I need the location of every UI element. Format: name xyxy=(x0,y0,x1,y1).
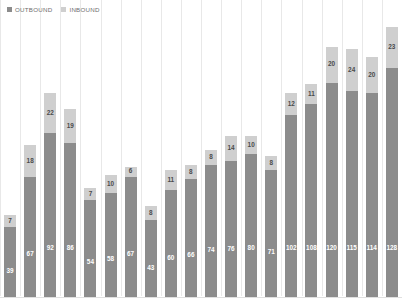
bar-value-label-outbound: 76 xyxy=(228,246,235,252)
bar-value-label-inbound: 19 xyxy=(67,123,74,129)
bar-slot: 23128 xyxy=(382,11,402,297)
bar-value-label-inbound: 11 xyxy=(308,91,315,97)
stacked-bar-chart: OUTBOUNDINBOUND 739186722921986754105866… xyxy=(0,0,402,307)
bar-segment-inbound[interactable]: 24 xyxy=(346,49,358,92)
bar-segment-inbound[interactable]: 19 xyxy=(64,109,76,143)
stacked-bar[interactable]: 24115 xyxy=(346,49,358,297)
bar-value-label-inbound: 23 xyxy=(388,44,395,50)
bar-slot: 11108 xyxy=(301,11,321,297)
bar-segment-inbound[interactable]: 11 xyxy=(305,84,317,104)
bar-segment-inbound[interactable]: 7 xyxy=(4,215,16,228)
bar-value-label-inbound: 8 xyxy=(149,210,153,216)
bar-slot: 1058 xyxy=(100,11,120,297)
bar-segment-outbound[interactable]: 120 xyxy=(326,83,338,298)
stacked-bar[interactable]: 1867 xyxy=(24,145,36,297)
stacked-bar[interactable]: 667 xyxy=(125,167,137,297)
stacked-bar[interactable]: 20120 xyxy=(326,47,338,297)
bar-value-label-outbound: 60 xyxy=(167,255,174,261)
stacked-bar[interactable]: 12102 xyxy=(285,93,297,297)
stacked-bar[interactable]: 1986 xyxy=(64,109,76,297)
bar-segment-outbound[interactable]: 67 xyxy=(125,177,137,297)
bar-value-label-inbound: 10 xyxy=(107,181,114,187)
bar-segment-inbound[interactable]: 14 xyxy=(225,136,237,161)
bar-segment-inbound[interactable]: 6 xyxy=(125,167,137,178)
bar-value-label-outbound: 58 xyxy=(107,256,114,262)
bar-segment-outbound[interactable]: 115 xyxy=(346,91,358,297)
bar-slot: 24115 xyxy=(342,11,362,297)
stacked-bar[interactable]: 11108 xyxy=(305,84,317,297)
bar-value-label-outbound: 86 xyxy=(67,245,74,251)
bar-segment-inbound[interactable]: 11 xyxy=(165,170,177,190)
bar-value-label-outbound: 80 xyxy=(248,245,255,251)
bar-slot: 1986 xyxy=(60,11,80,297)
bar-segment-inbound[interactable]: 18 xyxy=(24,145,36,177)
stacked-bar[interactable]: 1476 xyxy=(225,136,237,297)
bar-segment-outbound[interactable]: 71 xyxy=(265,170,277,297)
bar-value-label-inbound: 10 xyxy=(248,142,255,148)
bar-segment-outbound[interactable]: 66 xyxy=(185,179,197,297)
bar-segment-inbound[interactable]: 22 xyxy=(44,93,56,132)
bar-segment-inbound[interactable]: 8 xyxy=(145,206,157,220)
bar-segment-inbound[interactable]: 12 xyxy=(285,93,297,114)
legend-item-inbound[interactable]: INBOUND xyxy=(61,6,99,13)
bar-segment-inbound[interactable]: 23 xyxy=(386,27,398,68)
stacked-bar[interactable]: 23128 xyxy=(386,27,398,297)
bar-value-label-inbound: 20 xyxy=(328,61,335,67)
bar-value-label-inbound: 20 xyxy=(368,72,375,78)
bar-value-label-inbound: 7 xyxy=(8,218,12,224)
stacked-bar[interactable]: 871 xyxy=(265,156,277,297)
bar-segment-inbound[interactable]: 8 xyxy=(205,150,217,164)
legend-item-outbound[interactable]: OUTBOUND xyxy=(7,6,52,13)
bar-value-label-inbound: 11 xyxy=(167,177,174,183)
bar-segment-outbound[interactable]: 102 xyxy=(285,115,297,297)
legend-label: INBOUND xyxy=(69,6,99,13)
stacked-bar[interactable]: 843 xyxy=(145,206,157,297)
legend-swatch-outbound-icon xyxy=(7,7,12,12)
bar-value-label-inbound: 24 xyxy=(348,67,355,73)
legend-swatch-inbound-icon xyxy=(61,7,66,12)
bar-slot: 754 xyxy=(80,11,100,297)
bar-segment-outbound[interactable]: 80 xyxy=(245,154,257,297)
bar-slot: 12102 xyxy=(281,11,301,297)
bar-value-label-outbound: 39 xyxy=(6,268,13,274)
bar-segment-outbound[interactable]: 108 xyxy=(305,104,317,297)
bar-segment-inbound[interactable]: 8 xyxy=(265,156,277,170)
stacked-bar[interactable]: 1080 xyxy=(245,136,257,297)
bar-value-label-inbound: 12 xyxy=(288,101,295,107)
stacked-bar[interactable]: 1160 xyxy=(165,170,177,297)
bar-segment-outbound[interactable]: 76 xyxy=(225,161,237,297)
stacked-bar[interactable]: 1058 xyxy=(105,175,117,297)
bar-value-label-outbound: 114 xyxy=(367,245,377,251)
bar-segment-outbound[interactable]: 128 xyxy=(386,68,398,297)
chart-legend: OUTBOUNDINBOUND xyxy=(7,6,100,13)
bar-value-label-outbound: 102 xyxy=(286,245,297,251)
stacked-bar[interactable]: 754 xyxy=(84,188,96,297)
stacked-bar[interactable]: 2292 xyxy=(44,93,56,297)
bar-segment-inbound[interactable]: 20 xyxy=(326,47,338,83)
bar-segment-outbound[interactable]: 92 xyxy=(44,133,56,297)
bar-segment-outbound[interactable]: 86 xyxy=(64,143,76,297)
bar-segment-outbound[interactable]: 43 xyxy=(145,220,157,297)
bar-segment-inbound[interactable]: 7 xyxy=(84,188,96,201)
bar-segment-outbound[interactable]: 67 xyxy=(24,177,36,297)
bar-segment-outbound[interactable]: 39 xyxy=(4,227,16,297)
bar-value-label-outbound: 108 xyxy=(306,245,317,251)
bar-value-label-inbound: 8 xyxy=(209,154,213,160)
stacked-bar[interactable]: 20114 xyxy=(366,57,378,297)
bar-value-label-outbound: 74 xyxy=(207,247,214,253)
bar-segment-outbound[interactable]: 114 xyxy=(366,93,378,297)
bar-segment-inbound[interactable]: 8 xyxy=(185,165,197,179)
bar-segment-outbound[interactable]: 60 xyxy=(165,190,177,297)
stacked-bar[interactable]: 866 xyxy=(185,165,197,297)
bar-segment-outbound[interactable]: 74 xyxy=(205,165,217,297)
bar-segment-outbound[interactable]: 54 xyxy=(84,200,96,297)
bar-segment-inbound[interactable]: 20 xyxy=(366,57,378,93)
stacked-bar[interactable]: 874 xyxy=(205,150,217,297)
bar-value-label-outbound: 66 xyxy=(187,252,194,258)
bar-segment-inbound[interactable]: 10 xyxy=(245,136,257,154)
bar-value-label-inbound: 14 xyxy=(228,145,235,151)
bar-segment-outbound[interactable]: 58 xyxy=(105,193,117,297)
bar-segment-inbound[interactable]: 10 xyxy=(105,175,117,193)
bar-value-label-outbound: 67 xyxy=(27,251,34,257)
stacked-bar[interactable]: 739 xyxy=(4,215,16,297)
